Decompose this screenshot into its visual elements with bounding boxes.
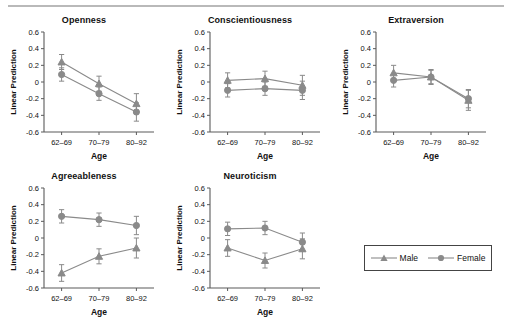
- plot-svg: -0.6-0.4-0.200.20.40.662–6970–7980–92Age…: [172, 182, 328, 322]
- plot-svg: -0.6-0.4-0.200.20.40.662–6970–7980–92Age…: [6, 182, 162, 322]
- svg-text:0.4: 0.4: [195, 200, 205, 209]
- svg-text:62–69: 62–69: [217, 138, 238, 147]
- svg-text:Linear Prediction: Linear Prediction: [175, 205, 184, 270]
- svg-text:-0.2: -0.2: [26, 94, 39, 103]
- svg-text:-0.6: -0.6: [358, 128, 371, 137]
- svg-text:-0.4: -0.4: [358, 111, 371, 120]
- plot-area: -0.6-0.4-0.200.20.40.662–6970–7980–92Age…: [6, 182, 162, 322]
- svg-text:0.6: 0.6: [361, 28, 371, 37]
- svg-text:-0.2: -0.2: [358, 94, 371, 103]
- plot-area: -0.6-0.4-0.200.20.40.662–6970–7980–92Age…: [6, 26, 162, 166]
- legend-label: Male: [400, 253, 418, 263]
- svg-text:62–69: 62–69: [217, 294, 238, 303]
- svg-text:0: 0: [35, 78, 39, 87]
- legend-marker-triangle: [371, 252, 397, 264]
- svg-text:-0.4: -0.4: [192, 111, 205, 120]
- svg-text:0.2: 0.2: [195, 61, 205, 70]
- svg-text:-0.2: -0.2: [192, 250, 205, 259]
- svg-text:Linear Prediction: Linear Prediction: [175, 49, 184, 114]
- legend-label: Female: [457, 253, 485, 263]
- svg-text:80–92: 80–92: [126, 138, 147, 147]
- chart-panel-extraversion: Extraversion-0.6-0.4-0.200.20.40.662–697…: [338, 14, 494, 166]
- plot-area: -0.6-0.4-0.200.20.40.662–6970–7980–92Age…: [172, 26, 328, 166]
- svg-text:Linear Prediction: Linear Prediction: [9, 205, 18, 270]
- plot-svg: -0.6-0.4-0.200.20.40.662–6970–7980–92Age…: [6, 26, 162, 166]
- plot-area: -0.6-0.4-0.200.20.40.662–6970–7980–92Age…: [338, 26, 494, 166]
- svg-text:70–79: 70–79: [255, 138, 276, 147]
- header-divider: [8, 5, 504, 7]
- svg-text:62–69: 62–69: [51, 138, 72, 147]
- svg-text:0.2: 0.2: [29, 61, 39, 70]
- legend-marker-circle: [428, 252, 454, 264]
- svg-text:-0.2: -0.2: [192, 94, 205, 103]
- plot-area: -0.6-0.4-0.200.20.40.662–6970–7980–92Age…: [172, 182, 328, 322]
- legend-item-male: Male: [371, 252, 418, 264]
- svg-text:-0.4: -0.4: [192, 267, 205, 276]
- svg-text:Age: Age: [91, 151, 107, 161]
- legend-item-female: Female: [428, 252, 485, 264]
- chart-title: Conscientiousness: [172, 14, 328, 26]
- svg-text:62–69: 62–69: [51, 294, 72, 303]
- svg-text:0: 0: [367, 78, 371, 87]
- svg-text:70–79: 70–79: [89, 294, 110, 303]
- chart-panel-neuroticism: Neuroticism-0.6-0.4-0.200.20.40.662–6970…: [172, 170, 328, 322]
- svg-text:-0.6: -0.6: [192, 128, 205, 137]
- svg-text:0.4: 0.4: [29, 200, 39, 209]
- svg-text:70–79: 70–79: [421, 138, 442, 147]
- svg-text:0.4: 0.4: [29, 44, 39, 53]
- chart-title: Agreeableness: [6, 170, 162, 182]
- svg-text:0.6: 0.6: [195, 28, 205, 37]
- svg-text:0.4: 0.4: [361, 44, 371, 53]
- svg-text:Age: Age: [257, 307, 273, 317]
- svg-text:0: 0: [35, 234, 39, 243]
- chart-title: Extraversion: [338, 14, 494, 26]
- svg-text:-0.6: -0.6: [26, 284, 39, 293]
- chart-panel-conscientiousness: Conscientiousness-0.6-0.4-0.200.20.40.66…: [172, 14, 328, 166]
- svg-text:70–79: 70–79: [255, 294, 276, 303]
- svg-text:Linear Prediction: Linear Prediction: [341, 49, 350, 114]
- svg-text:80–92: 80–92: [126, 294, 147, 303]
- svg-text:0.2: 0.2: [29, 217, 39, 226]
- svg-text:-0.6: -0.6: [26, 128, 39, 137]
- svg-text:80–92: 80–92: [292, 138, 313, 147]
- svg-text:Age: Age: [423, 151, 439, 161]
- svg-text:80–92: 80–92: [292, 294, 313, 303]
- svg-text:70–79: 70–79: [89, 138, 110, 147]
- svg-text:0.6: 0.6: [29, 28, 39, 37]
- svg-text:0.2: 0.2: [195, 217, 205, 226]
- svg-text:Linear Prediction: Linear Prediction: [9, 49, 18, 114]
- svg-text:Age: Age: [257, 151, 273, 161]
- svg-text:Age: Age: [91, 307, 107, 317]
- chart-panel-openness: Openness-0.6-0.4-0.200.20.40.662–6970–79…: [6, 14, 162, 166]
- chart-title: Neuroticism: [172, 170, 328, 182]
- svg-text:0: 0: [201, 234, 205, 243]
- svg-text:0.2: 0.2: [361, 61, 371, 70]
- svg-text:0.6: 0.6: [195, 184, 205, 193]
- legend: MaleFemale: [364, 245, 492, 271]
- svg-text:-0.4: -0.4: [26, 267, 39, 276]
- svg-text:-0.4: -0.4: [26, 111, 39, 120]
- svg-text:0: 0: [201, 78, 205, 87]
- svg-text:80–92: 80–92: [458, 138, 479, 147]
- svg-text:0.6: 0.6: [29, 184, 39, 193]
- svg-text:0.4: 0.4: [195, 44, 205, 53]
- plot-svg: -0.6-0.4-0.200.20.40.662–6970–7980–92Age…: [338, 26, 494, 166]
- chart-title: Openness: [6, 14, 162, 26]
- svg-text:-0.6: -0.6: [192, 284, 205, 293]
- chart-panel-agreeableness: Agreeableness-0.6-0.4-0.200.20.40.662–69…: [6, 170, 162, 322]
- svg-text:-0.2: -0.2: [26, 250, 39, 259]
- plot-svg: -0.6-0.4-0.200.20.40.662–6970–7980–92Age…: [172, 26, 328, 166]
- svg-text:62–69: 62–69: [383, 138, 404, 147]
